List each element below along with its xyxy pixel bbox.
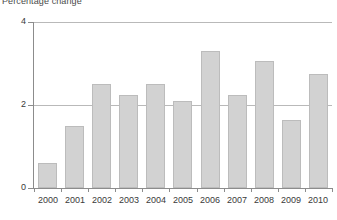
- bar: [201, 51, 220, 188]
- bar: [92, 84, 111, 188]
- bar: [173, 101, 192, 188]
- bar: [255, 61, 274, 188]
- bar: [146, 84, 165, 188]
- x-axis-tick: [61, 188, 62, 192]
- x-axis-tick: [251, 188, 252, 192]
- bar: [309, 74, 328, 188]
- x-axis-tick: [142, 188, 143, 192]
- x-axis-tick: [115, 188, 116, 192]
- x-axis-tick: [305, 188, 306, 192]
- bar: [228, 95, 247, 188]
- bar: [38, 163, 57, 188]
- bar: [119, 95, 138, 188]
- x-axis-tick: [332, 188, 333, 192]
- x-axis-tick: [197, 188, 198, 192]
- y-axis-label: 2: [0, 100, 26, 109]
- x-axis-tick: [278, 188, 279, 192]
- x-axis-tick: [34, 188, 35, 192]
- bar: [282, 120, 301, 188]
- x-axis-label: 2010: [300, 195, 336, 205]
- y-axis-label: 0: [0, 183, 26, 192]
- x-axis-tick: [169, 188, 170, 192]
- x-axis-tick: [224, 188, 225, 192]
- bars-group: [34, 0, 332, 189]
- bar: [65, 126, 84, 188]
- y-axis-label: 4: [0, 17, 26, 26]
- bar-chart: Percentage change 024 200020012002200320…: [0, 0, 337, 220]
- x-axis-tick: [88, 188, 89, 192]
